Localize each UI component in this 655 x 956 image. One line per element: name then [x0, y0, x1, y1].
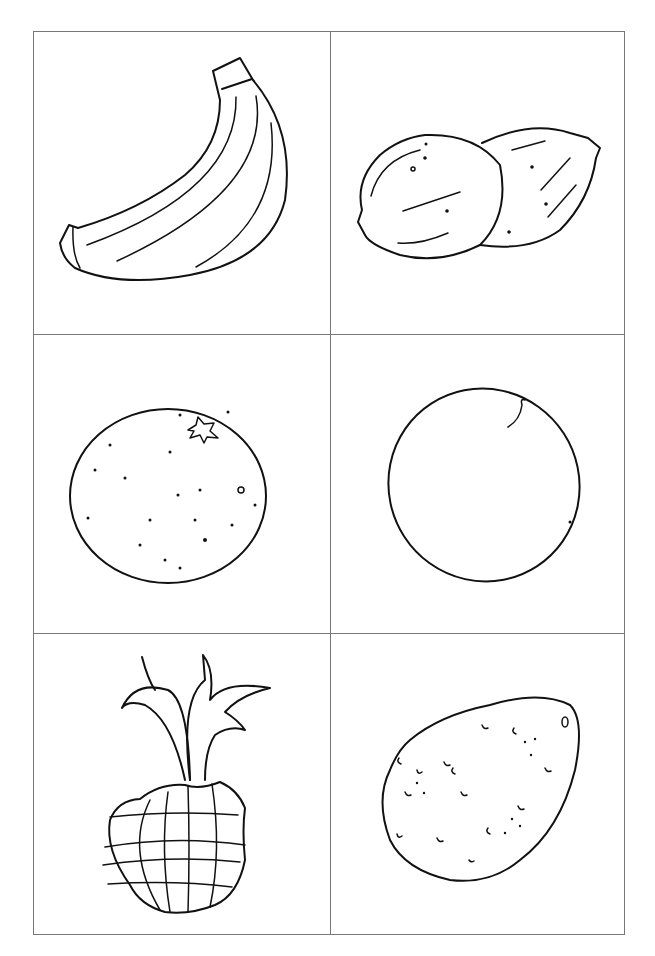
coconut-icon: [358, 128, 600, 258]
fruit-drawings: [0, 0, 655, 956]
orange-icon: [70, 409, 266, 583]
pineapple-icon: [103, 655, 270, 913]
banana-icon: [60, 58, 287, 280]
mango-icon: [351, 352, 616, 618]
kiwi-icon: [383, 698, 580, 881]
